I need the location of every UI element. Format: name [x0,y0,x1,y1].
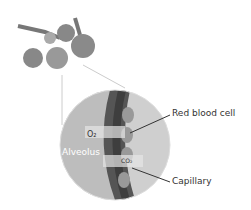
capillary-label: Capillary [172,176,212,186]
alveoli-diagram [0,0,251,210]
alveoli-cluster-icon [18,18,95,69]
o2-label: O₂ [87,130,97,139]
alveolus-label: Alveolus [62,147,100,157]
co2-label: CO₂ [121,157,132,164]
red-blood-cell-label: Red blood cell [172,108,235,118]
